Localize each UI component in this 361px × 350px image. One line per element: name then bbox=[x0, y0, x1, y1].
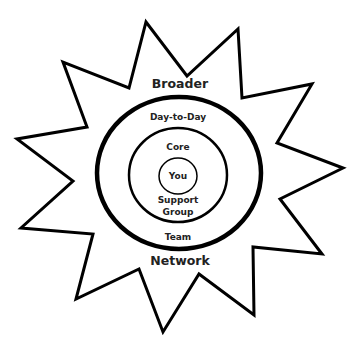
label-core: Core bbox=[166, 142, 189, 152]
label-broader: Broader bbox=[152, 76, 209, 91]
label-you: You bbox=[168, 171, 187, 181]
label-support: Support bbox=[158, 195, 199, 205]
label-network: Network bbox=[150, 253, 210, 268]
label-day-to-day: Day-to-Day bbox=[150, 112, 206, 122]
network-diagram: Broader Network Day-to-Day Team Core You… bbox=[0, 0, 361, 350]
label-group: Group bbox=[163, 207, 194, 217]
label-team: Team bbox=[165, 232, 192, 242]
